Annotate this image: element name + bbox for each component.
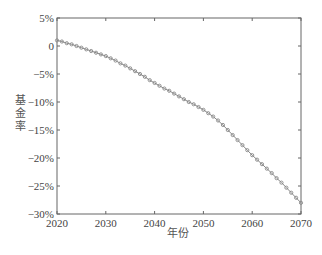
plot-frame xyxy=(57,18,301,214)
y-tick-label: −15% xyxy=(28,124,54,136)
x-tick-label: 2070 xyxy=(290,217,313,229)
x-tick-label: 2020 xyxy=(46,217,69,229)
x-tick-label: 2050 xyxy=(192,217,215,229)
plot-border xyxy=(57,18,301,214)
y-tick-label: 5% xyxy=(39,12,54,24)
line-chart: 5%0−5%−10%−15%−20%−25%−30% 2020203020402… xyxy=(0,0,322,255)
data-series xyxy=(55,39,302,205)
y-tick-label: −10% xyxy=(28,96,54,108)
x-tick-label: 2060 xyxy=(241,217,264,229)
x-tick-label: 2040 xyxy=(144,217,167,229)
y-tick-label: −5% xyxy=(33,68,54,80)
x-tick-label: 2030 xyxy=(95,217,118,229)
y-tick-label: −20% xyxy=(28,152,54,164)
y-tick-label: 0 xyxy=(49,40,55,52)
y-axis-title: 基金率 xyxy=(15,94,26,133)
y-tick-label: −25% xyxy=(28,180,54,192)
x-axis-title: 年份 xyxy=(167,226,189,240)
series-line xyxy=(57,40,301,202)
